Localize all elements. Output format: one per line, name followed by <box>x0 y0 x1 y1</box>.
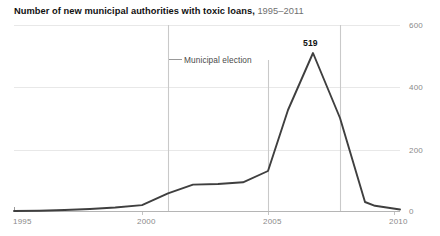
x-tick-label-2005: 2005 <box>263 217 282 226</box>
horizontal-gridlines <box>14 26 400 151</box>
y-tick-label-400: 400 <box>409 83 423 92</box>
plot-area: 600 400 200 0 1995 2000 2005 2010 Munici… <box>0 0 440 236</box>
y-tick-label-600: 600 <box>409 21 423 30</box>
y-tick-label-0: 0 <box>409 207 414 216</box>
chart-plot-svg <box>0 0 440 236</box>
x-tick-label-1995: 1995 <box>13 217 32 226</box>
x-tick-label-2010: 2010 <box>389 217 408 226</box>
x-tick-label-2000: 2000 <box>137 217 156 226</box>
peak-value-label: 519 <box>303 38 318 48</box>
data-series-line <box>14 53 400 211</box>
x-tick-marks <box>143 212 395 215</box>
chart-figure: Number of new municipal authorities with… <box>0 0 440 236</box>
annotation-municipal-election-label: Municipal election <box>184 55 252 65</box>
y-tick-label-200: 200 <box>409 146 423 155</box>
